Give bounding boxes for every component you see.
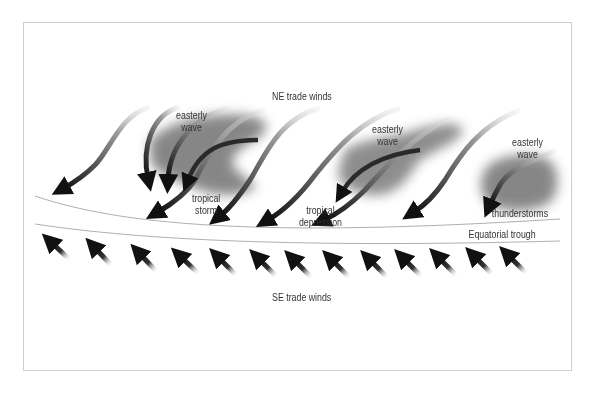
se-arrow-11 (439, 258, 457, 276)
easterly-wave-label-3-line2: wave (512, 149, 543, 161)
trough-upper-line (35, 196, 560, 228)
se-arrow-7 (294, 260, 312, 278)
se-arrow-1 (52, 243, 70, 260)
easterly-wave-label-3-line1: easterly (512, 137, 543, 149)
se-trade-wind-arrows (52, 243, 527, 278)
thunderstorms-label: thunderstorms (492, 208, 548, 220)
tropical-depression-label-line1: tropical (299, 205, 342, 217)
se-arrow-6 (259, 259, 277, 277)
trade-winds-diagram (0, 0, 600, 400)
tropical-depression-label: tropical depression (299, 205, 342, 229)
tropical-depression-label-line2: depression (299, 217, 342, 229)
easterly-wave-label-2-line2: wave (372, 136, 403, 148)
se-arrow-10 (404, 259, 422, 277)
ne-arrow-1 (64, 107, 150, 188)
se-arrow-12 (475, 257, 493, 275)
tropical-storm-label-line1: tropical (192, 193, 220, 205)
tropical-storm-label-line2: storm (192, 205, 220, 217)
easterly-wave-label-2: easterly wave (372, 124, 403, 148)
se-arrow-13 (509, 256, 527, 274)
ne-trade-wind-arrows (64, 107, 556, 220)
se-arrow-4 (181, 257, 199, 274)
se-arrow-2 (95, 248, 112, 266)
tropical-storm-label: tropical storm (192, 193, 220, 217)
easterly-wave-label-1: easterly wave (176, 110, 207, 134)
easterly-wave-label-2-line1: easterly (372, 124, 403, 136)
se-arrow-3 (140, 254, 157, 272)
easterly-wave-label-1-line2: wave (176, 122, 207, 134)
se-trade-winds-label: SE trade winds (272, 292, 331, 304)
equatorial-trough-label: Equatorial trough (469, 229, 536, 241)
easterly-wave-label-3: easterly wave (512, 137, 543, 161)
se-arrow-8 (332, 260, 350, 278)
se-arrow-5 (219, 258, 237, 276)
easterly-wave-label-1-line1: easterly (176, 110, 207, 122)
se-arrow-9 (370, 260, 388, 278)
ne-trade-winds-label: NE trade winds (272, 91, 332, 103)
